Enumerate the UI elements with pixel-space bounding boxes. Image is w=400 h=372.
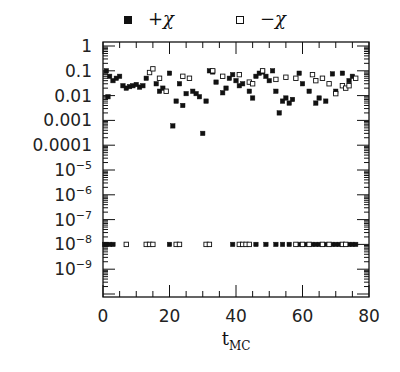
filled-square-marker [167,242,171,246]
open-square-marker [347,84,351,88]
filled-square-marker [104,69,108,73]
filled-square-marker [297,71,301,75]
filled-square-marker [154,82,158,86]
filled-square-marker [264,242,268,246]
open-square-marker [274,77,278,81]
open-square-marker [151,67,155,71]
filled-square-marker [230,242,234,246]
y-tick-label: 10−6 [54,184,92,205]
filled-square-marker [277,111,281,115]
x-tick-label: 60 [292,306,314,326]
filled-square-marker [317,96,321,100]
filled-square-marker [141,84,145,88]
open-square-marker [334,91,338,95]
open-square-marker [344,242,348,246]
y-tick-label: 0.0001 [33,135,92,155]
y-tick-label: 0.001 [43,110,92,130]
filled-square-marker [314,101,318,105]
y-tick-label: 10−8 [54,233,92,254]
open-square-marker [354,76,358,80]
filled-square-marker [274,242,278,246]
open-square-marker [307,242,311,246]
open-square-marker [314,78,318,82]
y-axis-tick-labels: 10.10.010.0010.000110−510−610−710−810−9 [33,36,92,279]
x-axis-tick-labels: 020406080 [98,306,380,326]
filled-square-marker [204,99,208,103]
x-axis-title: tMC [222,328,251,353]
open-square-marker [294,242,298,246]
filled-square-marker [274,89,278,93]
filled-square-marker [107,74,111,78]
filled-square-marker [111,242,115,246]
x-tick-label: 80 [358,306,380,326]
filled-square-marker [287,242,291,246]
filled-square-marker [221,91,225,95]
y-tick-label: 1 [81,36,92,56]
chart: +χ−χ 10.10.010.0010.000110−510−610−710−8… [0,0,400,372]
y-tick-label: 10−5 [54,159,92,180]
filled-square-marker [230,72,234,76]
x-tick-label: 0 [98,306,109,326]
open-square-marker [181,74,185,78]
open-square-marker [250,82,254,86]
filled-square-marker [280,242,284,246]
y-tick-label: 0.1 [65,61,92,81]
filled-square-marker [184,91,188,95]
y-tick-label: 0.01 [54,86,92,106]
y-tick-label: 10−7 [54,209,92,230]
open-square-marker [260,69,264,73]
filled-square-marker [300,82,304,86]
open-square-marker [124,242,128,246]
data-points [102,67,357,247]
open-square-marker [320,76,324,80]
legend-label: −χ [260,8,287,29]
filled-square-marker [181,103,185,107]
open-square-marker [327,242,331,246]
filled-square-marker [106,95,110,99]
open-square-marker [284,75,288,79]
x-axis-title-subscript: MC [229,339,250,353]
open-square-marker [164,89,168,93]
legend-open-square-icon [237,17,244,24]
filled-square-marker [324,99,328,103]
y-tick-label: 10−9 [54,258,92,279]
open-square-marker [327,82,331,86]
filled-square-marker [234,78,238,82]
x-tick-label: 40 [225,306,247,326]
legend-filled-square-icon [125,17,132,24]
filled-square-marker [290,97,294,101]
filled-square-marker [201,131,205,135]
filled-square-marker [330,72,334,76]
filled-square-marker [177,82,181,86]
open-square-marker [187,76,191,80]
filled-square-marker [254,242,258,246]
open-square-marker [237,72,241,76]
open-square-marker [310,72,314,76]
open-square-marker [211,69,215,73]
filled-square-marker [174,99,178,103]
filled-square-marker [171,124,175,128]
filled-square-marker [117,74,121,78]
filled-square-marker [240,82,244,86]
filled-square-marker [347,78,351,82]
filled-square-marker [167,71,171,75]
filled-square-marker [354,242,358,246]
legend-label: +χ [148,8,175,29]
open-square-marker [151,242,155,246]
x-tick-label: 20 [159,306,181,326]
filled-square-marker [284,96,288,100]
open-square-marker [177,242,181,246]
filled-square-marker [144,76,148,80]
filled-square-marker [264,74,268,78]
filled-square-marker [214,80,218,84]
open-square-marker [247,242,251,246]
open-square-marker [320,242,324,246]
open-square-marker [294,76,298,80]
filled-square-marker [247,89,251,93]
filled-square-marker [250,96,254,100]
filled-square-marker [270,69,274,73]
open-square-marker [221,74,225,78]
filled-square-marker [307,89,311,93]
filled-square-marker [197,95,201,99]
filled-square-marker [267,78,271,82]
